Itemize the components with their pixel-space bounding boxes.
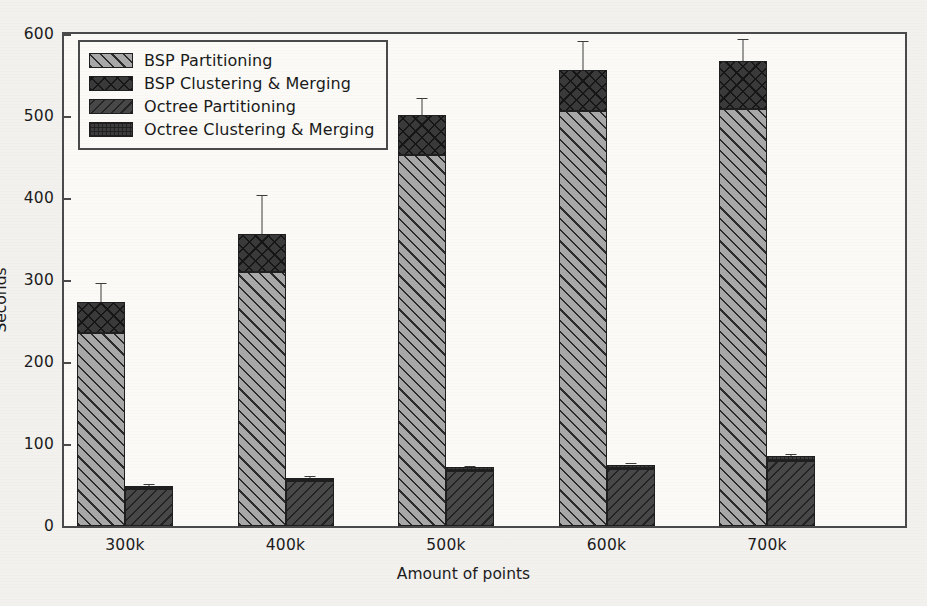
legend-item-label: Octree Partitioning [144,97,296,116]
y-tick-mark [64,526,71,528]
x-tick-label: 300k [105,536,144,554]
bsp-clustering-segment [719,61,767,109]
error-bar-cap [96,283,107,284]
y-tick-mark [64,280,71,282]
legend-swatch-icon [89,76,133,91]
octree-bar [286,478,334,526]
x-tick-label: 600k [587,536,626,554]
bsp-error-bar [398,98,446,115]
octree-partitioning-segment [607,469,655,526]
legend-swatch-icon [89,53,133,68]
error-bar-stem [422,98,423,115]
bsp-clustering-segment [77,302,125,333]
octree-bar [767,456,815,526]
legend-item: Octree Clustering & Merging [89,118,374,141]
error-bar-stem [743,39,744,61]
bsp-bar [398,115,446,526]
error-bar-cap [786,454,797,455]
bsp-partitioning-segment [238,272,286,526]
octree-partitioning-segment [125,489,173,526]
error-bar-stem [261,195,262,234]
y-tick-label: 600 [24,25,54,43]
error-bar-stem [101,283,102,302]
octree-bar [446,467,494,526]
legend-item: BSP Clustering & Merging [89,72,374,95]
error-bar-cap [577,41,588,42]
bsp-bar [559,70,607,526]
octree-bar [607,465,655,527]
octree-error-bar [286,476,334,478]
x-axis-label: Amount of points [0,565,927,583]
bsp-bar [77,302,125,526]
bsp-bar [238,234,286,526]
y-tick-mark [64,198,71,200]
bsp-partitioning-segment [559,111,607,526]
y-tick-mark [64,444,71,446]
y-tick-label: 200 [24,353,54,371]
y-tick-label: 100 [24,435,54,453]
bsp-error-bar [559,41,607,71]
octree-partitioning-segment [446,471,494,526]
legend-item-label: Octree Clustering & Merging [144,120,374,139]
legend-swatch-icon [89,99,133,114]
octree-bar [125,486,173,526]
bsp-clustering-segment [398,115,446,155]
bsp-clustering-segment [238,234,286,272]
bsp-partitioning-segment [77,333,125,526]
error-bar-cap [738,39,749,40]
error-bar-cap [144,484,155,485]
legend-item-label: BSP Partitioning [144,51,273,70]
octree-error-bar [125,484,173,486]
octree-partitioning-segment [767,461,815,526]
octree-partitioning-segment [286,481,334,526]
octree-error-bar [767,454,815,456]
x-tick-label: 400k [266,536,305,554]
y-tick-label: 300 [24,271,54,289]
bsp-clustering-segment [559,70,607,111]
x-tick-label: 700k [747,536,786,554]
legend: BSP PartitioningBSP Clustering & Merging… [78,40,388,150]
y-tick-mark [64,362,71,364]
y-tick-label: 500 [24,107,54,125]
bsp-error-bar [77,283,125,302]
chart-figure: 0100200300400500600 300k400k500k600k700k… [0,0,927,606]
octree-error-bar [446,466,494,467]
legend-item-label: BSP Clustering & Merging [144,74,351,93]
error-bar-cap [465,466,476,467]
legend-swatch-icon [89,122,133,137]
y-axis-label: Seconds [0,267,10,332]
legend-item: Octree Partitioning [89,95,374,118]
error-bar-cap [417,98,428,99]
y-tick-mark [64,34,71,36]
y-tick-mark [64,116,71,118]
y-tick-label: 0 [44,517,54,535]
error-bar-cap [304,476,315,477]
y-tick-label: 400 [24,189,54,207]
bsp-bar [719,61,767,526]
bsp-error-bar [719,39,767,61]
legend-item: BSP Partitioning [89,49,374,72]
error-bar-cap [256,195,267,196]
error-bar-cap [625,463,636,464]
error-bar-stem [582,41,583,71]
bsp-partitioning-segment [719,109,767,526]
bsp-error-bar [238,195,286,234]
x-tick-label: 500k [426,536,465,554]
bsp-partitioning-segment [398,155,446,526]
octree-error-bar [607,463,655,465]
